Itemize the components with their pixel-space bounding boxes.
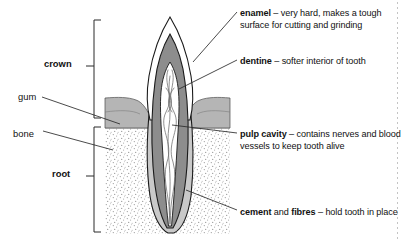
label-root: root <box>52 168 70 179</box>
tooth-diagram-page: enamel – very hard, makes a tough surfac… <box>0 0 406 241</box>
callout-enamel: enamel – very hard, makes a tough surfac… <box>240 7 402 32</box>
callout-enamel-dash: – <box>271 8 281 18</box>
crown-bracket <box>86 20 101 118</box>
leader-enamel <box>193 12 237 62</box>
callout-dentine-term: dentine <box>240 56 272 66</box>
root-bracket <box>86 127 101 232</box>
callout-pulp-cavity-dash: – <box>287 129 297 139</box>
tooth-cross-section-illustration <box>0 0 406 241</box>
callout-cement-dash: – <box>316 207 326 217</box>
callout-enamel-term: enamel <box>240 8 271 18</box>
callout-cement-and-fibres: cement and fibres – hold tooth in place <box>240 206 402 218</box>
label-bone: bone <box>13 128 34 139</box>
callout-cement-term: cement <box>240 207 271 217</box>
callout-pulp-cavity: pulp cavity – contains nerves and blood … <box>240 128 404 153</box>
leader-bone <box>43 131 113 150</box>
callout-dentine-dash: – <box>272 56 282 66</box>
callout-cement-description: hold tooth in place <box>325 207 397 217</box>
callout-dentine-description: softer interior of tooth <box>282 56 366 66</box>
callout-fibres-term: fibres <box>291 207 315 217</box>
label-crown: crown <box>44 58 72 69</box>
callout-dentine: dentine – softer interior of tooth <box>240 55 402 67</box>
callout-pulp-cavity-term: pulp cavity <box>240 129 287 139</box>
callout-cement-conjunction: and <box>271 207 291 217</box>
label-gum: gum <box>18 91 36 102</box>
